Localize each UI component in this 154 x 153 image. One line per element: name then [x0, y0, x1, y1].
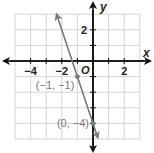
- y-axis-label: y: [99, 0, 108, 14]
- x-tick-label: −2: [56, 65, 69, 77]
- x-tick-label: −4: [24, 65, 37, 77]
- x-axis-label: x: [142, 46, 151, 60]
- x-tick-label: 2: [121, 65, 127, 77]
- y-tick-label: 2: [81, 24, 87, 36]
- data-point: [75, 74, 80, 79]
- data-point: [91, 121, 96, 126]
- origin-label: O: [81, 64, 90, 76]
- point-label: (−1, −1): [36, 79, 75, 91]
- point-label: (0, −4): [57, 117, 89, 129]
- labels: x y O: [81, 0, 151, 76]
- coordinate-plane: −4−222 (−1, −1)(0, −4) x y O: [0, 0, 154, 153]
